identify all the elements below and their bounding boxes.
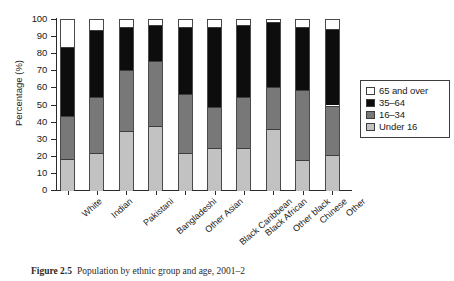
figure-caption: Figure 2.5Population by ethnic group and… bbox=[31, 266, 431, 277]
legend-item-label: 35–64 bbox=[379, 98, 405, 108]
y-axis-tick-label: 40 bbox=[21, 117, 47, 127]
stacked-bar bbox=[148, 19, 163, 190]
y-axis-tick-label: 100 bbox=[21, 14, 47, 24]
bar-segment bbox=[149, 20, 162, 25]
bar-segment bbox=[237, 97, 250, 148]
bar-group bbox=[207, 19, 222, 190]
stacked-bar bbox=[325, 19, 340, 190]
bar-segment bbox=[61, 20, 74, 47]
plot-area bbox=[57, 19, 349, 190]
bar-segment-divider bbox=[326, 29, 339, 30]
legend-swatch-icon bbox=[366, 111, 375, 119]
y-axis-tick bbox=[51, 190, 56, 191]
x-axis-tick bbox=[215, 191, 216, 195]
bar-segment bbox=[61, 47, 74, 115]
x-axis-tick bbox=[332, 191, 333, 195]
x-axis-tick bbox=[185, 191, 186, 195]
legend-item: 65 and over bbox=[366, 85, 445, 97]
bar-segment bbox=[120, 27, 133, 70]
bar-group bbox=[60, 19, 75, 190]
y-axis-tick bbox=[51, 36, 56, 37]
y-axis-tick-label: 20 bbox=[21, 151, 47, 161]
bar-segment bbox=[326, 20, 339, 29]
x-axis-tick-label: Indian bbox=[110, 197, 134, 220]
legend-item-label: 16–34 bbox=[379, 110, 405, 120]
bar-segment bbox=[267, 22, 280, 87]
legend-item: 16–34 bbox=[366, 109, 445, 121]
chart-legend: 65 and over35–6416–34Under 16 bbox=[360, 80, 450, 138]
x-axis-tick bbox=[68, 191, 69, 195]
bar-segment-divider bbox=[267, 22, 280, 23]
y-axis-tick-label: 0 bbox=[21, 185, 47, 195]
bar-segment bbox=[179, 27, 192, 94]
y-axis-tick-label: 70 bbox=[21, 65, 47, 75]
y-axis-tick bbox=[51, 19, 56, 20]
bar-group bbox=[295, 19, 310, 190]
bar-segment-divider bbox=[90, 153, 103, 154]
bar-segment-divider bbox=[120, 70, 133, 71]
bar-segment-divider bbox=[90, 97, 103, 98]
bar-segment bbox=[149, 61, 162, 126]
bar-segment-divider bbox=[120, 27, 133, 28]
bar-segment bbox=[267, 87, 280, 130]
bar-segment-divider bbox=[149, 61, 162, 62]
bar-segment bbox=[149, 126, 162, 191]
bar-segment bbox=[61, 116, 74, 159]
bar-segment-divider bbox=[208, 27, 221, 28]
x-axis-tick bbox=[156, 191, 157, 195]
stacked-bar bbox=[178, 19, 193, 190]
x-axis-tick-label: Other bbox=[345, 197, 368, 219]
bar-segment bbox=[120, 131, 133, 191]
y-axis-tick bbox=[51, 53, 56, 54]
y-axis-tick bbox=[51, 139, 56, 140]
y-axis-tick bbox=[51, 156, 56, 157]
bar-segment-divider bbox=[149, 126, 162, 127]
bar-segment bbox=[237, 25, 250, 97]
bar-segment bbox=[326, 155, 339, 191]
x-axis-tick bbox=[273, 191, 274, 195]
bar-segment bbox=[296, 20, 309, 27]
bar-segment-divider bbox=[237, 148, 250, 149]
bar-group bbox=[178, 19, 193, 190]
bar-segment bbox=[149, 25, 162, 61]
bar-segment-divider bbox=[208, 148, 221, 149]
bar-segment-divider bbox=[208, 107, 221, 108]
bar-group bbox=[325, 19, 340, 190]
x-axis-tick-label: White bbox=[80, 197, 103, 219]
bar-segment bbox=[296, 160, 309, 191]
y-axis-tick bbox=[51, 173, 56, 174]
y-axis-tick-label: 60 bbox=[21, 82, 47, 92]
y-axis-tick bbox=[51, 105, 56, 106]
bar-segment-divider bbox=[61, 47, 74, 48]
legend-swatch-icon bbox=[366, 123, 375, 131]
bar-segment-divider bbox=[326, 155, 339, 156]
figure-caption-text: Population by ethnic group and age, 2001… bbox=[77, 266, 245, 276]
bar-group bbox=[148, 19, 163, 190]
bar-segment bbox=[179, 153, 192, 191]
bar-segment-divider bbox=[326, 106, 339, 107]
y-axis-tick bbox=[51, 70, 56, 71]
bar-segment bbox=[61, 159, 74, 191]
bar-segment bbox=[90, 97, 103, 153]
bar-segment-divider bbox=[267, 129, 280, 130]
y-axis-tick bbox=[51, 87, 56, 88]
bar-segment bbox=[326, 106, 339, 156]
x-axis-tick bbox=[244, 191, 245, 195]
x-axis-tick bbox=[97, 191, 98, 195]
figure-container: 0102030405060708090100 Percentage (%) Wh… bbox=[0, 0, 454, 281]
bar-segment-divider bbox=[296, 160, 309, 161]
bar-segment bbox=[267, 129, 280, 191]
y-axis-title: Percentage (%) bbox=[14, 33, 24, 153]
y-axis-tick-label: 80 bbox=[21, 48, 47, 58]
legend-swatch-icon bbox=[366, 99, 375, 107]
stacked-bar bbox=[295, 19, 310, 190]
bar-segment-divider bbox=[61, 116, 74, 117]
bar-segment-divider bbox=[179, 153, 192, 154]
bar-segment bbox=[208, 148, 221, 191]
bar-group bbox=[119, 19, 134, 190]
bar-segment bbox=[237, 20, 250, 25]
bar-segment bbox=[179, 94, 192, 154]
y-axis-tick bbox=[51, 122, 56, 123]
bar-segment-divider bbox=[237, 97, 250, 98]
y-axis-tick-label: 10 bbox=[21, 168, 47, 178]
